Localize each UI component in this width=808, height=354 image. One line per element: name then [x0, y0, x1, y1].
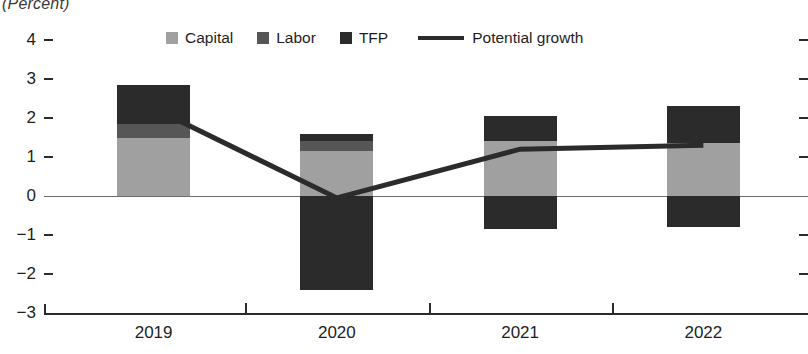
potential-growth-line [0, 0, 808, 354]
x-axis-tick-label: 2021 [501, 323, 539, 343]
x-axis-tick-mark [245, 303, 247, 314]
x-axis-tick-mark [429, 303, 431, 314]
x-axis-tick-label: 2022 [684, 323, 722, 343]
x-axis-tick-label: 2019 [135, 323, 173, 343]
chart-container: (Percent) Capital Labor TFP Potential gr… [0, 0, 808, 354]
x-axis-tick-mark [612, 303, 614, 314]
plot-area: 43210−1−2−32019202020212022 [0, 0, 808, 354]
x-axis-tick-label: 2020 [318, 323, 356, 343]
